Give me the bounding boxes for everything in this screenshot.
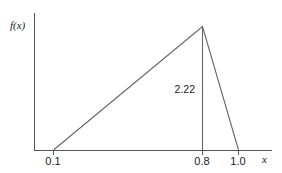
x-tick-label-1.0: 1.0 [223, 156, 253, 167]
x-tick-label-0.1: 0.1 [38, 156, 68, 167]
peak-value-annotation: 2.22 [150, 84, 195, 95]
x-tick-label-0.8: 0.8 [187, 156, 217, 167]
x-axis-label: x [262, 154, 267, 165]
plot-canvas [0, 0, 282, 173]
triangular-density-figure: f(x) x 0.1 0.8 1.0 2.22 [0, 0, 282, 173]
y-axis-label: f(x) [10, 20, 25, 31]
density-curve [54, 27, 239, 151]
